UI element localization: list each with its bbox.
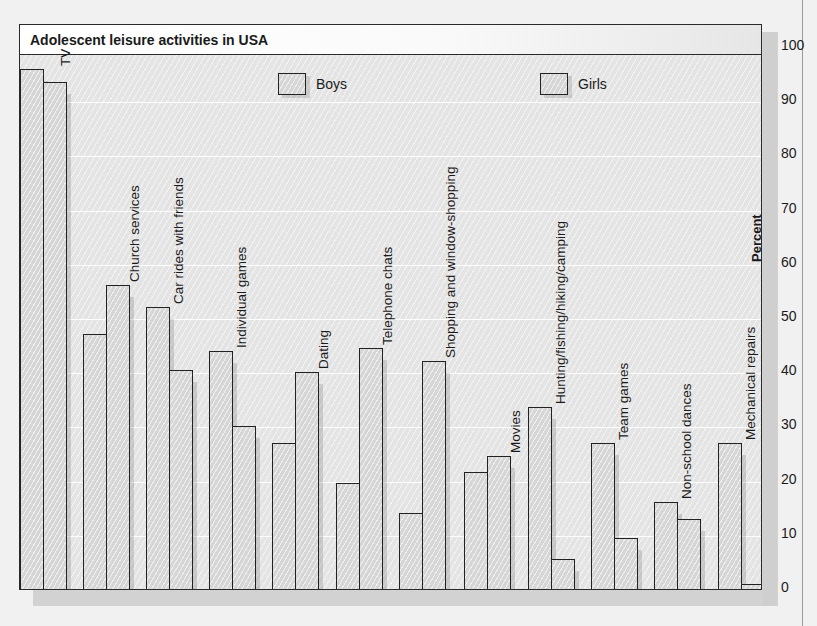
y-tick-label: 0 xyxy=(781,579,789,595)
category-label: Shopping and window-shopping xyxy=(443,167,458,358)
bar-boys xyxy=(591,443,615,589)
bar-boys xyxy=(718,443,742,589)
bar-girls xyxy=(422,361,446,589)
category-label: Mechanical repairs xyxy=(743,326,758,439)
bar-boys xyxy=(464,472,488,589)
bar-girls xyxy=(232,426,256,589)
category-label: Team games xyxy=(616,362,631,439)
page-edge-rule xyxy=(802,0,803,626)
bar-boys xyxy=(528,407,552,589)
y-tick-label: 70 xyxy=(781,200,797,216)
y-tick-label: 40 xyxy=(781,362,797,378)
bar-girls xyxy=(677,519,701,589)
legend-item-girls: Girls xyxy=(540,73,607,95)
category-label: Car rides with friends xyxy=(171,177,186,304)
y-tick-label: 30 xyxy=(781,416,797,432)
bar-boys xyxy=(272,443,296,589)
y-tick-label: 20 xyxy=(781,471,797,487)
category-label: Individual games xyxy=(234,246,249,347)
bar-boys xyxy=(83,334,107,589)
bar-girls xyxy=(487,456,511,589)
y-tick-label: 10 xyxy=(781,525,797,541)
y-tick-label: 50 xyxy=(781,308,797,324)
plot-area: Boys Girls TVChurch servicesCar rides wi… xyxy=(20,55,761,589)
legend-label-boys: Boys xyxy=(316,76,347,92)
y-tick-label: 80 xyxy=(781,145,797,161)
y-axis-shade xyxy=(763,32,777,606)
bar-girls xyxy=(551,559,575,589)
category-label: Hunting/fishing/hiking/camping xyxy=(553,221,568,404)
chart-frame: Adolescent leisure activities in USA Boy… xyxy=(19,24,762,590)
chart-title-bar: Adolescent leisure activities in USA xyxy=(20,25,761,55)
bar-boys xyxy=(654,502,678,589)
category-label: Church services xyxy=(127,186,142,283)
y-axis-title: Percent xyxy=(749,214,764,262)
bar-boys xyxy=(20,69,44,589)
bar-girls xyxy=(614,538,638,589)
bar-boys xyxy=(146,307,170,589)
bar-boys xyxy=(209,351,233,589)
y-tick-label: 90 xyxy=(781,91,797,107)
legend-swatch-girls xyxy=(540,73,568,95)
bar-girls xyxy=(169,370,193,590)
legend-label-girls: Girls xyxy=(578,76,607,92)
gridline xyxy=(20,102,761,103)
chart-title: Adolescent leisure activities in USA xyxy=(30,32,268,48)
bar-girls xyxy=(295,372,319,589)
legend-item-boys: Boys xyxy=(278,73,347,95)
y-tick-label: 100 xyxy=(781,37,804,53)
category-label: Dating xyxy=(316,330,331,369)
bar-boys xyxy=(399,513,423,589)
category-label: Movies xyxy=(508,410,523,453)
bar-girls xyxy=(106,285,130,589)
category-label: Non-school dances xyxy=(679,384,694,500)
gridline xyxy=(20,156,761,157)
category-label: TV xyxy=(58,48,73,65)
bar-boys xyxy=(336,483,360,589)
bar-girls xyxy=(741,584,762,589)
category-label: Telephone chats xyxy=(380,246,395,344)
legend-swatch-boys xyxy=(278,73,306,95)
y-tick-label: 60 xyxy=(781,254,797,270)
bar-girls xyxy=(43,82,67,589)
bar-girls xyxy=(359,348,383,589)
